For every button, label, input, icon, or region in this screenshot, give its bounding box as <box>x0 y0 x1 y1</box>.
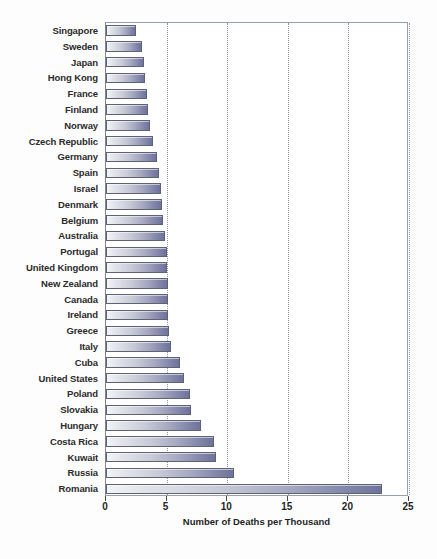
bar-row: United States <box>106 371 409 387</box>
category-label: Ireland <box>0 307 98 323</box>
bar-rows: SingaporeSwedenJapanHong KongFranceFinla… <box>106 23 407 495</box>
x-tick-label: 20 <box>342 501 353 512</box>
category-label: Singapore <box>0 23 98 39</box>
bar-row: Norway <box>106 118 409 134</box>
bar <box>106 341 171 351</box>
bar-row: Slovakia <box>106 402 409 418</box>
bar <box>106 452 216 462</box>
category-label: Finland <box>0 102 98 118</box>
bar-row: Germany <box>106 149 409 165</box>
category-label: Hong Kong <box>0 70 98 86</box>
bar-row: Hungary <box>106 418 409 434</box>
bar <box>106 120 150 130</box>
category-label: Kuwait <box>0 450 98 466</box>
bar <box>106 420 201 430</box>
x-tick-label: 0 <box>102 501 108 512</box>
category-label: Japan <box>0 55 98 71</box>
bar-row: Ireland <box>106 307 409 323</box>
category-label: Italy <box>0 339 98 355</box>
category-label: United Kingdom <box>0 260 98 276</box>
bar-row: Czech Republic <box>106 134 409 150</box>
bar-chart: SingaporeSwedenJapanHong KongFranceFinla… <box>0 0 437 559</box>
x-tick-label: 5 <box>163 501 169 512</box>
x-axis-title: Number of Deaths per Thousand <box>105 516 408 527</box>
category-label: Spain <box>0 165 98 181</box>
plot-area: SingaporeSwedenJapanHong KongFranceFinla… <box>105 22 408 496</box>
bar-row: Denmark <box>106 197 409 213</box>
bar <box>106 104 148 114</box>
bar-row: France <box>106 86 409 102</box>
bar <box>106 468 234 478</box>
bar <box>106 168 159 178</box>
bar <box>106 278 168 288</box>
bar-row: Singapore <box>106 23 409 39</box>
bar <box>106 73 145 83</box>
bar-row: Japan <box>106 55 409 71</box>
bar <box>106 199 162 209</box>
gridline-25 <box>409 23 410 495</box>
category-label: Costa Rica <box>0 434 98 450</box>
category-label: Israel <box>0 181 98 197</box>
bar <box>106 436 214 446</box>
bar-row: Costa Rica <box>106 434 409 450</box>
bar-row: Portugal <box>106 244 409 260</box>
category-label: Australia <box>0 228 98 244</box>
bar-row: Kuwait <box>106 450 409 466</box>
bar <box>106 152 157 162</box>
bar-row: United Kingdom <box>106 260 409 276</box>
bar <box>106 247 167 257</box>
category-label: Slovakia <box>0 402 98 418</box>
bar-row: Greece <box>106 323 409 339</box>
x-tick-label: 10 <box>221 501 232 512</box>
category-label: Norway <box>0 118 98 134</box>
bar-row: Finland <box>106 102 409 118</box>
bar-row: Hong Kong <box>106 70 409 86</box>
category-label: Romania <box>0 481 98 497</box>
bar-row: Poland <box>106 386 409 402</box>
bar <box>106 231 165 241</box>
category-label: Portugal <box>0 244 98 260</box>
bar <box>106 310 168 320</box>
category-label: Canada <box>0 292 98 308</box>
category-label: Greece <box>0 323 98 339</box>
bar <box>106 183 161 193</box>
category-label: Hungary <box>0 418 98 434</box>
bar <box>106 262 167 272</box>
x-tick-label: 25 <box>402 501 413 512</box>
category-label: New Zealand <box>0 276 98 292</box>
bar-row: Belgium <box>106 213 409 229</box>
category-label: Denmark <box>0 197 98 213</box>
x-axis: 0510152025 <box>105 496 408 510</box>
bar-row: Sweden <box>106 39 409 55</box>
bar <box>106 373 184 383</box>
bar <box>106 405 191 415</box>
bar <box>106 484 382 494</box>
bar-row: Cuba <box>106 355 409 371</box>
bar-row: Australia <box>106 228 409 244</box>
bar <box>106 57 144 67</box>
bar-row: Italy <box>106 339 409 355</box>
bar <box>106 357 180 367</box>
category-label: Czech Republic <box>0 134 98 150</box>
category-label: Sweden <box>0 39 98 55</box>
bar <box>106 136 153 146</box>
category-label: France <box>0 86 98 102</box>
bar-row: Canada <box>106 292 409 308</box>
bar-row: Israel <box>106 181 409 197</box>
category-label: United States <box>0 371 98 387</box>
bar <box>106 389 190 399</box>
x-tick-label: 15 <box>281 501 292 512</box>
bar-row: New Zealand <box>106 276 409 292</box>
bar <box>106 294 168 304</box>
bar <box>106 25 136 35</box>
bar <box>106 41 142 51</box>
category-label: Cuba <box>0 355 98 371</box>
bar <box>106 89 147 99</box>
bar-row: Spain <box>106 165 409 181</box>
category-label: Poland <box>0 386 98 402</box>
bar <box>106 326 169 336</box>
category-label: Belgium <box>0 213 98 229</box>
bar-row: Russia <box>106 465 409 481</box>
bar <box>106 215 163 225</box>
category-label: Germany <box>0 149 98 165</box>
